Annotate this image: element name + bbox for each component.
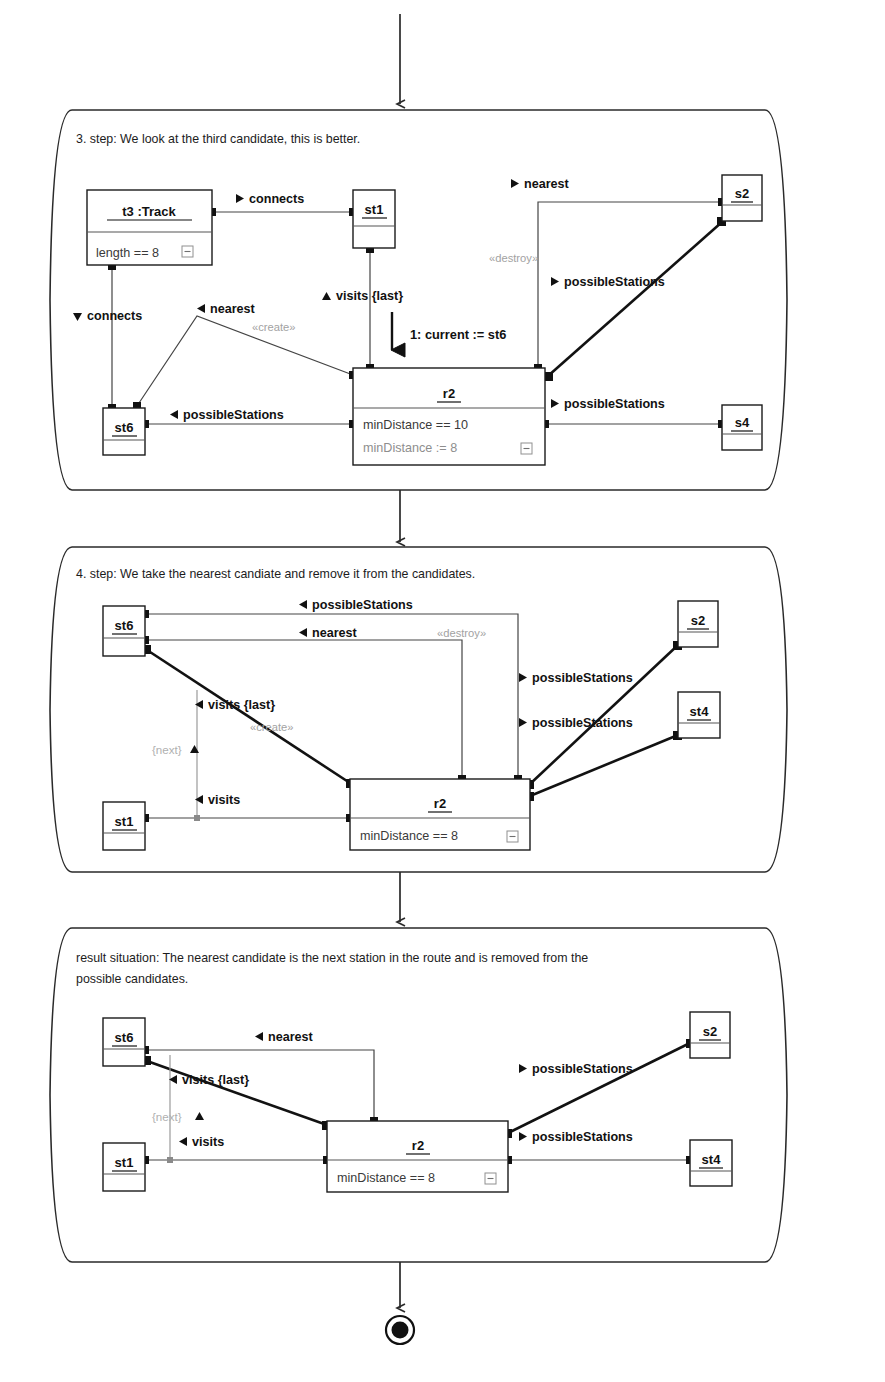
object-st4-step4[interactable]: st4 — [678, 692, 720, 738]
panel-step4-caption: 4. step: We take the nearest candiate an… — [76, 567, 475, 581]
stereotype-destroy-step3: «destroy» — [489, 252, 538, 264]
role-label-nearest-r2-s2-step3: nearest — [524, 177, 570, 191]
panel-step3[interactable]: 3. step: We look at the third candidate,… — [50, 110, 787, 490]
object-st1-step4-name: st1 — [115, 814, 134, 829]
object-t3-track[interactable]: t3 :Track length == 8 — [87, 190, 212, 265]
collapse-toggle-r2-step4[interactable] — [507, 831, 518, 842]
role-label-connects-t3-st1: connects — [249, 192, 304, 206]
object-st1-result[interactable]: st1 — [103, 1143, 145, 1191]
object-st4-result-name: st4 — [702, 1152, 722, 1167]
object-s2-result-name: s2 — [703, 1024, 717, 1039]
object-st6-step3-name: st6 — [115, 420, 134, 435]
panel-step4[interactable]: 4. step: We take the nearest candiate an… — [50, 547, 787, 872]
role-label-nearest-result: nearest — [268, 1030, 314, 1044]
object-s2-step4[interactable]: s2 — [678, 601, 718, 647]
message-label-current-assign-st6: 1: current := st6 — [410, 327, 506, 342]
role-label-nearest-step3: nearest — [210, 302, 256, 316]
object-st4-result[interactable]: st4 — [690, 1140, 732, 1186]
object-s2-step3-name: s2 — [735, 186, 749, 201]
object-st1-step4[interactable]: st1 — [103, 802, 145, 850]
object-st6-step4-name: st6 — [115, 618, 134, 633]
object-s2-result[interactable]: s2 — [690, 1012, 730, 1058]
object-st6-result[interactable]: st6 — [103, 1018, 145, 1066]
role-label-visits-step4: visits — [208, 793, 240, 807]
object-r2-step3-name: r2 — [443, 386, 455, 401]
panel-result-caption-line1: result situation: The nearest candidate … — [76, 951, 588, 965]
role-label-visits-last-step3: visits {last} — [336, 289, 403, 303]
final-state-node[interactable] — [386, 1316, 414, 1344]
object-s2-step3[interactable]: s2 — [722, 175, 762, 221]
object-t3-track-attr-length: length == 8 — [96, 246, 159, 260]
object-r2-step3[interactable]: r2 minDistance == 10 minDistance := 8 — [353, 368, 545, 465]
object-st1-result-name: st1 — [115, 1155, 134, 1170]
object-r2-step3-attr-mindistance-eq: minDistance == 10 — [363, 418, 468, 432]
stereotype-destroy-step4: «destroy» — [437, 627, 486, 639]
panel-step3-caption: 3. step: We look at the third candidate,… — [76, 132, 360, 146]
constraint-label-next-step4: {next} — [152, 743, 182, 756]
role-label-possiblestations-r2-st4-result: possibleStations — [532, 1130, 633, 1144]
object-r2-step3-attr-mindistance-assign: minDistance := 8 — [363, 441, 457, 455]
object-t3-track-name: t3 :Track — [122, 204, 176, 219]
stereotype-create-step3: «create» — [252, 321, 296, 333]
role-label-possiblestations-r2-s2-result: possibleStations — [532, 1062, 633, 1076]
panel-result-caption-line2: possible candidates. — [76, 972, 188, 986]
object-r2-result-attr-mindistance: minDistance == 8 — [337, 1171, 435, 1185]
object-s2-step4-name: s2 — [691, 613, 705, 628]
constraint-label-next-result: {next} — [152, 1110, 182, 1123]
object-st4-step4-name: st4 — [690, 704, 710, 719]
role-label-possiblestations-r2-s4-step3: possibleStations — [564, 397, 665, 411]
collapse-toggle-r2-result[interactable] — [485, 1173, 496, 1184]
object-r2-step4-attr-mindistance: minDistance == 8 — [360, 829, 458, 843]
stereotype-create-step4: «create» — [250, 721, 294, 733]
object-st6-result-name: st6 — [115, 1030, 134, 1045]
object-st1-step3-name: st1 — [365, 202, 384, 217]
role-label-visits-result: visits — [192, 1135, 224, 1149]
object-st6-step3[interactable]: st6 — [103, 408, 145, 455]
object-st6-step4[interactable]: st6 — [103, 606, 145, 656]
role-label-possiblestations-r2-s2-step4: possibleStations — [532, 671, 633, 685]
role-label-possiblestations-st6-r2-step4: possibleStations — [312, 598, 413, 612]
panel-result[interactable]: result situation: The nearest candidate … — [50, 928, 787, 1262]
object-s4-step3-name: s4 — [735, 415, 750, 430]
object-r2-step4-name: r2 — [434, 796, 446, 811]
object-s4-step3[interactable]: s4 — [722, 405, 762, 450]
role-label-possiblestations-r2-s2-step3: possibleStations — [564, 275, 665, 289]
role-label-possiblestations-r2-st4-step4: possibleStations — [532, 716, 633, 730]
role-label-visits-last-step4: visits {last} — [208, 698, 275, 712]
role-label-nearest-step4: nearest — [312, 626, 358, 640]
object-r2-result[interactable]: r2 minDistance == 8 — [327, 1121, 508, 1192]
role-label-visits-last-result: visits {last} — [182, 1073, 249, 1087]
object-r2-result-name: r2 — [412, 1138, 424, 1153]
object-r2-step4[interactable]: r2 minDistance == 8 — [350, 779, 530, 850]
object-st1-step3[interactable]: st1 — [353, 190, 395, 248]
collapse-toggle-t3[interactable] — [182, 246, 193, 257]
interaction-overview-diagram: 3. step: We look at the third candidate,… — [0, 0, 885, 1382]
role-label-connects-t3-st6: connects — [87, 309, 142, 323]
role-label-possiblestations-st6-r2-step3: possibleStations — [183, 408, 284, 422]
collapse-toggle-r2-step3[interactable] — [521, 443, 532, 454]
